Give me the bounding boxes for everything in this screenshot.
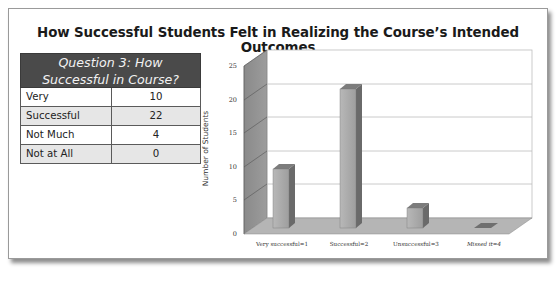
- chart-plot: [9, 9, 547, 258]
- y-tick: 10: [223, 163, 237, 171]
- bar-very-successful: [273, 164, 295, 228]
- y-tick: 5: [223, 196, 237, 204]
- x-tick-label: Very successful=1: [247, 241, 317, 247]
- y-tick: 15: [223, 129, 237, 137]
- y-tick: 0: [223, 230, 237, 238]
- bar-successful: [340, 84, 362, 228]
- x-tick-label: Successful=2: [314, 241, 384, 247]
- side-wall: [244, 50, 267, 234]
- bar-unsuccessful: [407, 203, 429, 228]
- y-tick: 25: [223, 62, 237, 70]
- x-tick-label: Unsuccessful=3: [381, 241, 451, 247]
- y-tick: 20: [223, 96, 237, 104]
- back-wall: [267, 50, 532, 218]
- y-axis-label: Number of Students: [201, 104, 210, 194]
- figure-frame: How Successful Students Felt in Realizin…: [8, 8, 548, 259]
- bar-chart: Number of Students 0 5 10 15 20 25 Very …: [9, 9, 547, 258]
- x-tick-label: Missed it=4: [449, 241, 519, 247]
